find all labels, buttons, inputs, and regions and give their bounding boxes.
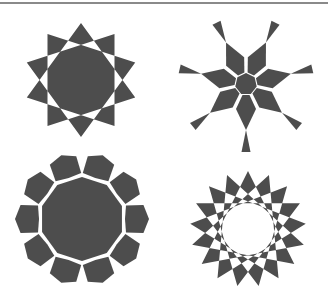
petal (50, 155, 81, 181)
ten-point-star (27, 23, 135, 137)
seventeen-point-star (190, 171, 306, 286)
arm-tip (291, 64, 313, 73)
arm-inner (248, 43, 266, 76)
petal (83, 257, 114, 283)
petal (15, 205, 39, 233)
arm-inner (236, 95, 256, 130)
seventeen-point-star-shape (190, 171, 306, 286)
core-decagon (42, 177, 122, 261)
seven-arm-star (179, 21, 314, 152)
arm-tip (266, 21, 280, 43)
arm-inner (201, 69, 236, 89)
arm-inner (226, 43, 244, 76)
ten-point-star-shape (27, 23, 135, 137)
hub-heptagon (235, 73, 256, 94)
arm-tip (179, 64, 201, 73)
arm-tip (212, 21, 226, 43)
petal (50, 257, 81, 283)
arm-inner (210, 88, 240, 113)
arm-tip (190, 113, 210, 130)
arm-inner (252, 88, 282, 113)
arm-tip (282, 113, 302, 130)
arm-tip (242, 130, 251, 152)
petal (83, 155, 114, 181)
star-patterns-figure (0, 0, 328, 303)
ten-petal-rosette (15, 155, 149, 282)
petal (125, 205, 149, 233)
arm-inner (256, 69, 291, 89)
